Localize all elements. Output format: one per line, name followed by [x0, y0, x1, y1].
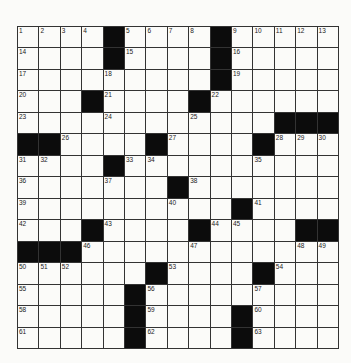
grid-cell[interactable]	[318, 156, 338, 176]
grid-cell[interactable]	[189, 285, 209, 305]
grid-cell[interactable]: 6	[146, 27, 166, 47]
grid-cell[interactable]	[275, 177, 295, 197]
grid-cell[interactable]	[253, 113, 273, 133]
grid-cell[interactable]: 31	[18, 156, 38, 176]
grid-cell[interactable]	[232, 177, 252, 197]
grid-cell[interactable]	[253, 220, 273, 240]
grid-cell[interactable]: 42	[18, 220, 38, 240]
grid-cell[interactable]	[189, 263, 209, 283]
grid-cell[interactable]: 3	[61, 27, 81, 47]
grid-cell[interactable]	[275, 306, 295, 326]
grid-cell[interactable]	[318, 328, 338, 348]
grid-cell[interactable]	[296, 263, 316, 283]
grid-cell[interactable]	[232, 113, 252, 133]
grid-cell[interactable]: 44	[211, 220, 231, 240]
grid-cell[interactable]	[318, 48, 338, 68]
grid-cell[interactable]	[61, 285, 81, 305]
grid-cell[interactable]	[232, 156, 252, 176]
grid-cell[interactable]	[211, 156, 231, 176]
grid-cell[interactable]	[168, 285, 188, 305]
grid-cell[interactable]	[275, 48, 295, 68]
grid-cell[interactable]	[104, 263, 124, 283]
grid-cell[interactable]	[146, 48, 166, 68]
grid-cell[interactable]	[82, 48, 102, 68]
grid-cell[interactable]	[211, 328, 231, 348]
grid-cell[interactable]: 40	[168, 199, 188, 219]
grid-cell[interactable]	[168, 91, 188, 111]
grid-cell[interactable]	[211, 199, 231, 219]
grid-cell[interactable]: 14	[18, 48, 38, 68]
grid-cell[interactable]: 35	[253, 156, 273, 176]
grid-cell[interactable]	[189, 306, 209, 326]
grid-cell[interactable]: 45	[232, 220, 252, 240]
grid-cell[interactable]	[39, 177, 59, 197]
grid-cell[interactable]	[275, 328, 295, 348]
grid-cell[interactable]	[296, 199, 316, 219]
grid-cell[interactable]	[275, 199, 295, 219]
grid-cell[interactable]	[232, 263, 252, 283]
grid-cell[interactable]	[125, 91, 145, 111]
grid-cell[interactable]	[318, 263, 338, 283]
grid-cell[interactable]	[82, 328, 102, 348]
grid-cell[interactable]: 4	[82, 27, 102, 47]
grid-cell[interactable]: 54	[275, 263, 295, 283]
grid-cell[interactable]	[82, 70, 102, 90]
grid-cell[interactable]	[39, 70, 59, 90]
grid-cell[interactable]	[211, 134, 231, 154]
grid-cell[interactable]	[318, 306, 338, 326]
grid-cell[interactable]	[125, 70, 145, 90]
grid-cell[interactable]	[211, 306, 231, 326]
grid-cell[interactable]: 63	[253, 328, 273, 348]
grid-cell[interactable]	[168, 328, 188, 348]
grid-cell[interactable]	[318, 177, 338, 197]
grid-cell[interactable]: 33	[125, 156, 145, 176]
grid-cell[interactable]: 55	[18, 285, 38, 305]
grid-cell[interactable]: 2	[39, 27, 59, 47]
grid-cell[interactable]	[275, 242, 295, 262]
grid-cell[interactable]	[82, 113, 102, 133]
grid-cell[interactable]	[146, 113, 166, 133]
grid-cell[interactable]	[146, 70, 166, 90]
grid-cell[interactable]: 52	[61, 263, 81, 283]
grid-cell[interactable]	[168, 242, 188, 262]
grid-cell[interactable]: 57	[253, 285, 273, 305]
grid-cell[interactable]: 10	[253, 27, 273, 47]
grid-cell[interactable]	[82, 306, 102, 326]
grid-cell[interactable]	[275, 91, 295, 111]
grid-cell[interactable]	[318, 91, 338, 111]
grid-cell[interactable]	[125, 113, 145, 133]
grid-cell[interactable]: 60	[253, 306, 273, 326]
grid-cell[interactable]: 18	[104, 70, 124, 90]
grid-cell[interactable]	[168, 113, 188, 133]
grid-cell[interactable]: 26	[61, 134, 81, 154]
grid-cell[interactable]: 36	[18, 177, 38, 197]
grid-cell[interactable]	[39, 285, 59, 305]
grid-cell[interactable]	[61, 177, 81, 197]
grid-cell[interactable]	[253, 91, 273, 111]
grid-cell[interactable]	[211, 242, 231, 262]
grid-cell[interactable]	[61, 306, 81, 326]
grid-cell[interactable]	[189, 156, 209, 176]
grid-cell[interactable]: 30	[318, 134, 338, 154]
grid-cell[interactable]	[39, 91, 59, 111]
grid-cell[interactable]: 15	[125, 48, 145, 68]
grid-cell[interactable]	[39, 113, 59, 133]
grid-cell[interactable]: 32	[39, 156, 59, 176]
grid-cell[interactable]: 24	[104, 113, 124, 133]
grid-cell[interactable]: 41	[253, 199, 273, 219]
grid-cell[interactable]	[104, 306, 124, 326]
grid-cell[interactable]: 28	[275, 134, 295, 154]
grid-cell[interactable]	[211, 263, 231, 283]
grid-cell[interactable]	[82, 285, 102, 305]
grid-cell[interactable]: 16	[232, 48, 252, 68]
grid-cell[interactable]	[189, 328, 209, 348]
grid-cell[interactable]: 48	[296, 242, 316, 262]
grid-cell[interactable]	[146, 242, 166, 262]
grid-cell[interactable]: 9	[232, 27, 252, 47]
grid-cell[interactable]	[39, 328, 59, 348]
grid-cell[interactable]: 22	[211, 91, 231, 111]
grid-cell[interactable]: 34	[146, 156, 166, 176]
grid-cell[interactable]	[211, 285, 231, 305]
grid-cell[interactable]: 59	[146, 306, 166, 326]
grid-cell[interactable]: 49	[318, 242, 338, 262]
